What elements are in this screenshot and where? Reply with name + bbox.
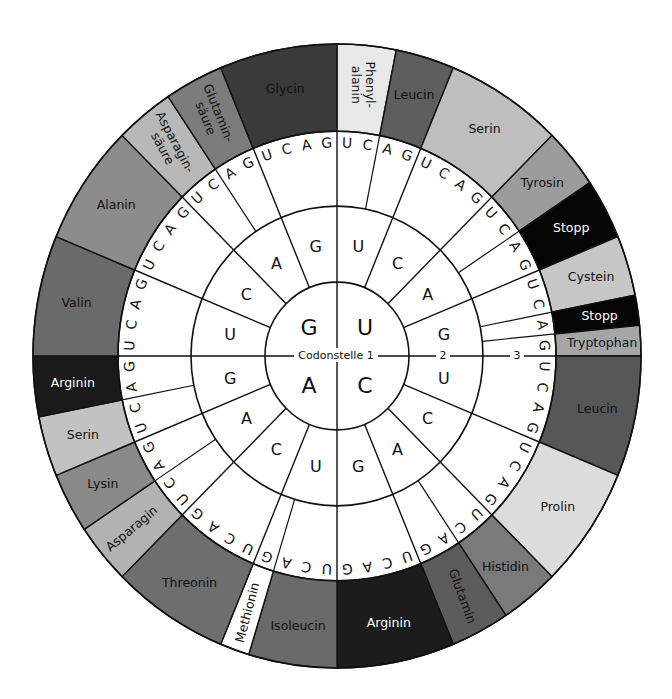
amino-acid-label: Prolin [540, 499, 575, 514]
amino-acid-label: Leucin [394, 87, 435, 102]
second-base-letter: C [241, 285, 252, 304]
first-base-letter: U [357, 315, 373, 340]
codon-position-1-label: Codonstelle 1 [298, 349, 373, 362]
second-base-letter: A [392, 440, 403, 459]
first-base-letter: C [357, 373, 372, 398]
third-base-letter: G [341, 561, 353, 578]
second-base-letter: G [438, 325, 450, 344]
second-base-letter: U [438, 369, 450, 388]
codon-position-2-label: 2 [440, 349, 447, 362]
third-base-letter: U [342, 135, 353, 151]
amino-acid-label: Tyrosin [519, 175, 564, 190]
amino-acid-label: Threonin [161, 575, 217, 590]
second-base-letter: A [271, 254, 282, 273]
first-base-letter: A [301, 373, 316, 398]
second-base-letter: A [422, 285, 433, 304]
first-base-letter: G [300, 315, 317, 340]
third-base-letter: G [121, 361, 138, 373]
second-base-letter: C [271, 440, 282, 459]
amino-acid-label: Isoleucin [270, 618, 325, 633]
third-base-letter: U [321, 561, 332, 577]
second-base-letter: A [241, 409, 252, 428]
amino-acid-label: Serin [468, 121, 500, 136]
amino-acid-label: Glycin [266, 81, 305, 96]
amino-acid-label: Stopp [581, 308, 617, 323]
second-base-letter: C [392, 254, 403, 273]
third-base-letter: U [121, 340, 137, 351]
second-base-letter: G [224, 369, 236, 388]
third-base-letter: G [536, 340, 553, 352]
amino-acid-label: Serin [67, 427, 99, 442]
amino-acid-label: Histidin [482, 559, 529, 574]
amino-acid-label: Leucin [577, 401, 618, 416]
codon-wheel: Phenyl-alaninLeucinSerinTyrosinStoppCyst… [0, 0, 672, 699]
amino-acid-label: Arginin [367, 615, 411, 630]
amino-acid-label: Arginin [51, 375, 95, 390]
second-base-letter: U [310, 457, 322, 476]
amino-acid-label: Tryptophan [566, 335, 637, 350]
third-base-letter: U [537, 361, 553, 372]
amino-acid-label: Alanin [97, 197, 136, 212]
second-base-letter: G [352, 457, 364, 476]
second-base-letter: G [310, 237, 322, 256]
amino-acid-label: Stopp [553, 220, 589, 235]
third-base-letter: G [321, 135, 333, 152]
amino-acid-label: Valin [62, 295, 92, 310]
second-base-letter: C [422, 409, 433, 428]
codon-position-3-label: 3 [514, 349, 521, 362]
amino-acid-label: Cystein [568, 269, 615, 284]
amino-acid-label: Phenyl-alanin [349, 62, 378, 108]
second-base-letter: U [224, 325, 236, 344]
amino-acid-label: Lysin [87, 476, 118, 491]
second-base-letter: U [352, 237, 364, 256]
